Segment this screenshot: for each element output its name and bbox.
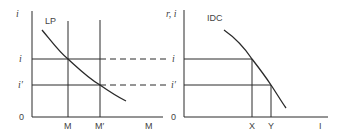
lp-curve [42,30,126,101]
right-x-tick-y: Y [268,122,274,131]
right-y-axis-label: r, i [166,9,177,18]
right-level-i-prime-label: i′ [171,80,176,89]
left-origin-label: 0 [19,113,24,122]
left-x-axis-label: M [145,122,153,131]
idc-curve-label: IDC [207,14,223,23]
left-level-i-label: i [19,54,22,63]
idc-curve [224,30,286,108]
right-x-axis-label: I [319,122,322,131]
left-panel-graph [32,11,166,117]
left-y-axis-label: i [16,9,19,18]
left-x-tick-m: M [64,122,72,131]
left-x-tick-m-prime: M′ [95,122,104,131]
lp-curve-label: LP [45,17,56,26]
right-panel-graph [184,10,328,117]
right-x-tick-x: X [249,122,255,131]
left-level-i-prime-label: i′ [18,80,23,89]
right-origin-label: 0 [171,113,176,122]
right-level-i-label: i [172,54,175,63]
